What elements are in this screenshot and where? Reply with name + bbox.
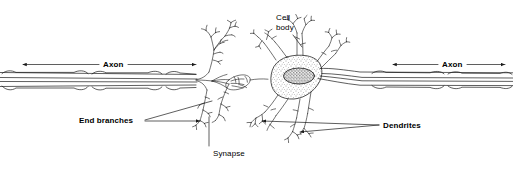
label-axon-right: Axon <box>442 60 462 69</box>
synapse <box>212 74 268 89</box>
label-cell-body-line1: Cell <box>276 13 294 23</box>
cell-body <box>271 55 322 99</box>
label-end-branches: End branches <box>79 116 133 125</box>
label-axon-left: Axon <box>103 60 123 69</box>
cell-body-leader <box>293 35 302 47</box>
axon-left-myelin <box>0 71 197 90</box>
dendrites-leader <box>262 121 379 132</box>
nucleus <box>284 68 315 84</box>
axon-right-myelin <box>318 68 513 88</box>
label-synapse: Synapse <box>213 149 245 158</box>
dendrites-lower <box>247 92 313 143</box>
neuron-drawing <box>0 0 513 169</box>
end-branches-leader <box>145 101 212 121</box>
label-cell-body-line2: body <box>276 23 294 33</box>
neuron-diagram: Axon Axon Cell body End branches Synapse… <box>0 0 513 169</box>
label-cell-body: Cell body <box>276 13 294 33</box>
axon-terminal-left <box>193 20 239 129</box>
dendrite-left <box>212 84 230 122</box>
label-dendrites: Dendrites <box>383 121 421 130</box>
